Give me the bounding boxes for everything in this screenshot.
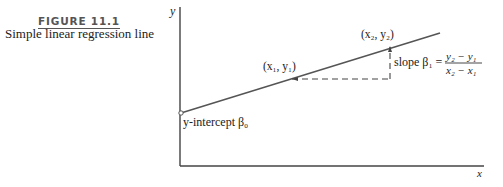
slope-denominator: x₂ − x₁ <box>445 64 477 76</box>
slope-numerator: y₂ − y₁ <box>445 50 477 62</box>
regression-diagram: y x (x₁, y₁) (x₂, y₂) slope β₁ = y₂ − y₁… <box>0 0 503 187</box>
regression-line <box>181 33 440 113</box>
x-axis-label: x <box>476 167 482 179</box>
y-axis-label: y <box>169 4 176 18</box>
point2-label: (x₂, y₂) <box>361 28 394 41</box>
intercept-label: y-intercept β₀ <box>183 115 248 129</box>
slope-label: slope β₁ = <box>394 55 443 69</box>
point1-label: (x₁, y₁) <box>263 60 296 73</box>
